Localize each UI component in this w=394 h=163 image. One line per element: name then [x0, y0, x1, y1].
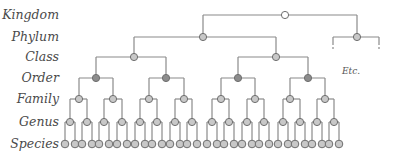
species-node — [131, 140, 139, 148]
genus-node — [83, 118, 90, 125]
species-node — [71, 140, 79, 148]
species-node — [308, 140, 316, 148]
species-node — [176, 140, 184, 148]
taxonomy-tree — [0, 0, 394, 163]
order-node — [162, 74, 169, 81]
species-node — [274, 140, 282, 148]
species-node — [284, 140, 292, 148]
order-node — [234, 74, 241, 81]
species-node — [318, 140, 326, 148]
family-node — [217, 95, 224, 102]
species-node — [105, 140, 113, 148]
phylum-node — [353, 33, 360, 40]
family-node — [145, 95, 152, 102]
genus-node — [100, 118, 107, 125]
species-node — [193, 140, 201, 148]
family-node — [251, 95, 258, 102]
order-node — [304, 74, 311, 81]
genus-node — [153, 118, 160, 125]
species-node — [335, 140, 343, 148]
species-node — [230, 140, 238, 148]
species-node — [78, 140, 86, 148]
species-node — [123, 140, 131, 148]
species-node — [61, 140, 69, 148]
genus-node — [279, 118, 286, 125]
species-node — [325, 140, 333, 148]
species-node — [88, 140, 96, 148]
family-node — [321, 95, 328, 102]
genus-node — [171, 118, 178, 125]
species-node — [203, 140, 211, 148]
species-node — [238, 140, 246, 148]
species-node — [113, 140, 121, 148]
species-node — [265, 140, 273, 148]
genus-node — [243, 118, 250, 125]
genus-node — [296, 118, 303, 125]
etc-label: Etc. — [342, 66, 360, 76]
tree-nodes — [61, 11, 360, 147]
kingdom-node — [281, 11, 288, 18]
genus-node — [330, 118, 337, 125]
species-node — [248, 140, 256, 148]
species-node — [95, 140, 103, 148]
genus-node — [188, 118, 195, 125]
species-node — [148, 140, 156, 148]
family-node — [109, 95, 116, 102]
species-node — [158, 140, 166, 148]
species-node — [213, 140, 221, 148]
class-node — [130, 53, 137, 60]
class-node — [272, 53, 279, 60]
species-node — [301, 140, 309, 148]
species-node — [141, 140, 149, 148]
genus-node — [313, 118, 320, 125]
species-node — [166, 140, 174, 148]
phylum-node — [199, 33, 206, 40]
order-node — [92, 74, 99, 81]
family-node — [180, 95, 187, 102]
family-node — [75, 95, 82, 102]
species-node — [183, 140, 191, 148]
species-node — [291, 140, 299, 148]
genus-node — [260, 118, 267, 125]
genus-node — [208, 118, 215, 125]
family-node — [286, 95, 293, 102]
species-node — [255, 140, 263, 148]
genus-node — [225, 118, 232, 125]
genus-node — [136, 118, 143, 125]
genus-node — [66, 118, 73, 125]
species-node — [220, 140, 228, 148]
genus-node — [118, 118, 125, 125]
